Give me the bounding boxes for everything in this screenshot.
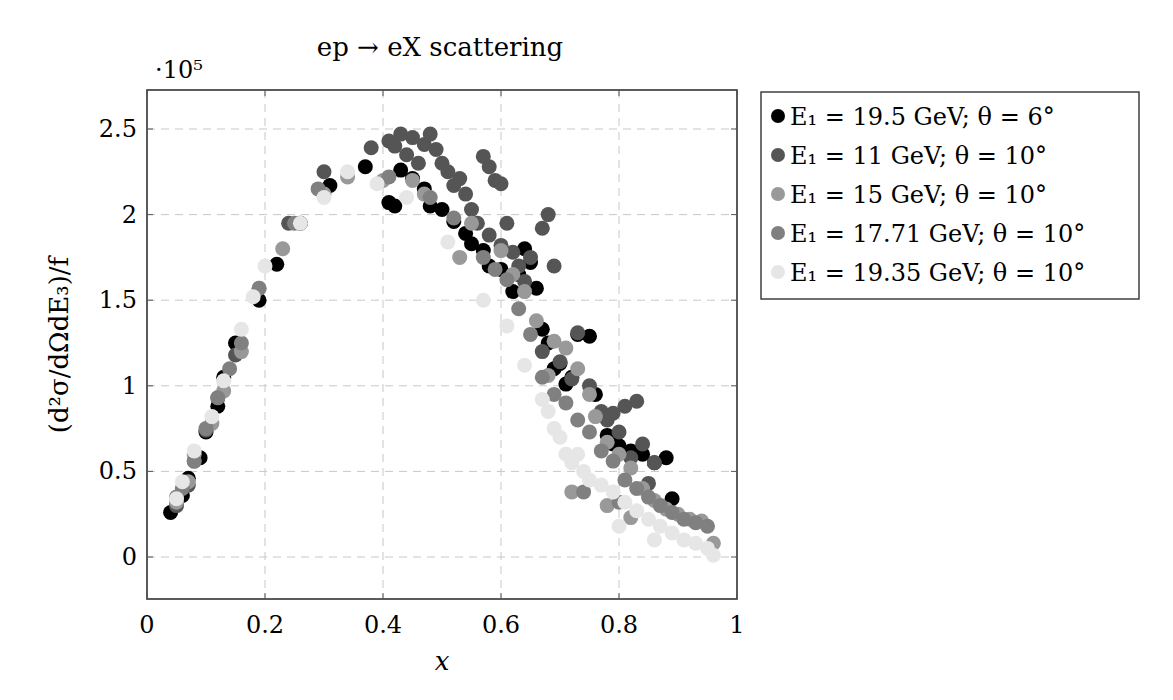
data-point [399,190,414,205]
legend-entry-label: E₁ = 11 GeV; θ = 10° [790,142,1047,170]
data-point [246,289,261,304]
data-point [476,250,491,265]
data-point [476,293,491,308]
data-point [234,322,249,337]
data-point [511,301,526,316]
data-point [535,221,550,236]
data-point [606,484,621,499]
data-point [558,395,573,410]
data-point [423,127,438,142]
data-point [452,171,467,186]
data-point [594,443,609,458]
data-point [169,491,184,506]
data-point [612,519,627,534]
data-point [464,216,479,231]
data-point [517,358,532,373]
data-point [647,455,662,470]
data-point [494,176,509,191]
data-point [370,176,385,191]
data-point [547,259,562,274]
data-point [482,159,497,174]
data-point [517,284,532,299]
data-point [535,344,550,359]
x-tick-label: 0 [139,611,154,639]
scatter-chart: 00.20.40.60.8100.511.522.5 ep → eX scatt… [0,0,1173,700]
data-point [358,159,373,174]
data-point [429,142,444,157]
legend-entry-label: E₁ = 17.71 GeV; θ = 10° [790,220,1085,248]
x-tick-label: 0.8 [600,611,638,639]
data-point [275,241,290,256]
data-point [317,190,332,205]
data-point [535,370,550,385]
data-point [482,228,497,243]
data-point [553,430,568,445]
data-point [570,361,585,376]
y-axis-label: (d²σ/dΩdE₃)/f [44,254,74,433]
x-tick-label: 0.6 [482,611,520,639]
x-tick-label: 0.4 [364,611,402,639]
data-point [570,325,585,340]
y-tick-label: 2 [122,201,137,229]
data-point [499,272,514,287]
data-point [258,259,273,274]
data-point [541,207,556,222]
data-point [293,216,308,231]
data-point [647,532,662,547]
legend: E₁ = 19.5 GeV; θ = 6°E₁ = 11 GeV; θ = 10… [761,92,1139,299]
data-point [588,409,603,424]
data-point [582,387,597,402]
data-point [440,235,455,250]
data-point [175,474,190,489]
legend-entry-label: E₁ = 19.5 GeV; θ = 6° [790,103,1055,131]
series-4 [169,164,721,563]
data-point [700,519,715,534]
data-point [488,262,503,277]
legend-marker [771,265,785,279]
data-point [452,250,467,265]
data-point [629,394,644,409]
data-point [706,548,721,563]
legend-marker [771,148,785,162]
data-point [317,164,332,179]
data-point [464,202,479,217]
y-tick-label: 1.5 [99,286,137,314]
legend-marker [771,109,785,123]
data-point [405,173,420,188]
data-point [635,437,650,452]
y-tick-label: 2.5 [99,115,137,143]
chart-title: ep → eX scattering [317,32,563,62]
y-tick-label: 0 [122,543,137,571]
data-point [411,156,426,171]
data-point [612,425,627,440]
data-points [163,127,721,563]
x-tick-label: 0.2 [246,611,284,639]
data-point [187,443,202,458]
data-point [558,341,573,356]
data-point [340,164,355,179]
data-point [499,318,514,333]
data-point [582,425,597,440]
data-point [446,211,461,226]
data-point [216,373,231,388]
data-point [570,447,585,462]
data-point [499,216,514,231]
data-point [541,404,556,419]
legend-marker [771,187,785,201]
x-tick-label: 1 [729,611,744,639]
data-point [204,409,219,424]
data-point [210,390,225,405]
data-point [523,250,538,265]
legend-marker [771,226,785,240]
data-point [570,413,585,428]
data-point [234,336,249,351]
data-point [364,140,379,155]
data-point [523,327,538,342]
series-3 [169,169,715,533]
x-axis-label: x [435,646,450,676]
data-point [423,190,438,205]
legend-entry-label: E₁ = 19.35 GeV; θ = 10° [790,259,1085,287]
y-tick-label: 0.5 [99,457,137,485]
data-point [458,187,473,202]
data-point [494,243,509,258]
